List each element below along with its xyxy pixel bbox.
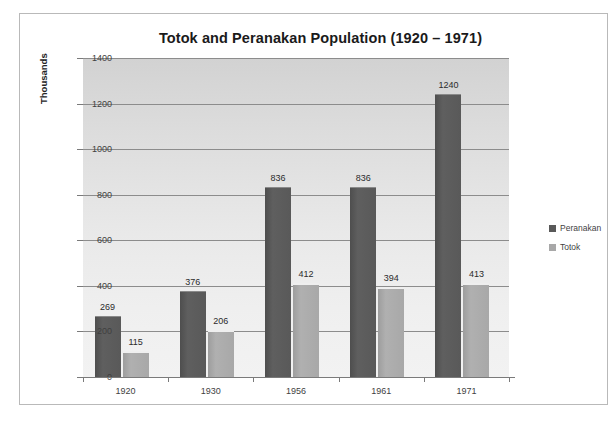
x-tick-mark [509, 377, 510, 382]
legend-item-totok: Totok [549, 242, 616, 252]
y-tick-mark [77, 104, 83, 105]
bar-value-label: 376 [185, 277, 200, 287]
scanned-page-frame: Totok and Peranakan Population (1920 – 1… [19, 13, 608, 405]
bar-peranakan-1956 [265, 187, 291, 377]
bar-totok-1961 [378, 287, 404, 377]
chart-legend: PeranakanTotok [549, 223, 616, 261]
bar-value-label: 413 [469, 269, 484, 279]
bar-peranakan-1961 [350, 187, 376, 377]
y-axis-title: Thousands [38, 90, 49, 104]
x-tick-mark [339, 377, 340, 382]
legend-label: Totok [560, 242, 580, 252]
y-tick-label: 200 [66, 326, 112, 336]
y-tick-mark [77, 195, 83, 196]
bar-peranakan-1930 [180, 291, 206, 377]
chart-title: Totok and Peranakan Population (1920 – 1… [20, 30, 607, 46]
plot-area: 2691153762068364128363941240413 [83, 58, 509, 377]
y-tick-mark [77, 149, 83, 150]
legend-item-peranakan: Peranakan [549, 223, 616, 233]
bar-value-label: 206 [213, 316, 228, 326]
bar-value-label: 836 [270, 173, 285, 183]
legend-swatch-icon [549, 225, 556, 232]
bar-peranakan-1971 [435, 94, 461, 377]
y-tick-label: 1400 [66, 53, 112, 63]
bar-value-label: 394 [384, 273, 399, 283]
legend-label: Peranakan [560, 223, 601, 233]
y-tick-mark [77, 240, 83, 241]
x-tick-mark [253, 377, 254, 382]
y-tick-mark [77, 286, 83, 287]
y-tick-label: 1200 [66, 99, 112, 109]
y-tick-label: 800 [66, 190, 112, 200]
x-tick-label: 1920 [86, 386, 166, 396]
gridline [83, 58, 509, 59]
x-axis-line [77, 377, 515, 378]
x-tick-label: 1930 [171, 386, 251, 396]
bar-totok-1920 [123, 351, 149, 377]
bar-value-label: 412 [298, 269, 313, 279]
x-tick-mark [168, 377, 169, 382]
y-tick-mark [77, 58, 83, 59]
bar-value-label: 269 [100, 302, 115, 312]
y-tick-label: 1000 [66, 144, 112, 154]
bar-totok-1971 [463, 283, 489, 377]
x-tick-label: 1956 [256, 386, 336, 396]
bar-value-label: 836 [356, 173, 371, 183]
y-tick-label: 600 [66, 235, 112, 245]
y-tick-label: 400 [66, 281, 112, 291]
bar-value-label: 1240 [438, 80, 458, 90]
y-tick-mark [77, 331, 83, 332]
legend-swatch-icon [549, 244, 556, 251]
bar-peranakan-1920 [95, 316, 121, 377]
x-tick-mark [83, 377, 84, 382]
bar-value-label: 115 [128, 337, 142, 347]
x-tick-label: 1971 [426, 386, 506, 396]
x-tick-mark [424, 377, 425, 382]
bar-totok-1930 [208, 330, 234, 377]
bar-totok-1956 [293, 283, 319, 377]
x-tick-label: 1961 [341, 386, 421, 396]
